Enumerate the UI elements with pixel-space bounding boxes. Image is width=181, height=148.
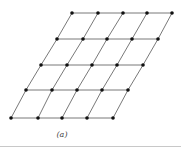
lattice-edge: [92, 39, 107, 65]
lattice-point: [100, 88, 104, 92]
lattice-edge: [77, 65, 92, 90]
lattice-point: [65, 63, 69, 67]
lattice-point: [60, 116, 64, 120]
lattice-edge: [132, 13, 147, 39]
lattice-point: [36, 116, 40, 120]
lattice-edge: [67, 39, 83, 65]
lattice-point: [141, 63, 145, 67]
lattice-edge: [143, 39, 158, 65]
lattice-point: [96, 11, 100, 15]
lattice-point: [90, 63, 94, 67]
lattice-edge: [117, 39, 132, 65]
lattice-point: [126, 88, 130, 92]
oblique-lattice-diagram: [0, 0, 181, 148]
lattice-point: [130, 37, 134, 41]
lattice-edge: [52, 65, 67, 90]
figure-caption: (a): [52, 130, 72, 139]
lattice-point: [24, 88, 28, 92]
lattice-edge: [87, 90, 102, 118]
lattice-point: [105, 37, 109, 41]
lattice-point: [9, 116, 13, 120]
lattice-point: [50, 88, 54, 92]
lattice-point: [70, 11, 74, 15]
lattice-edge: [83, 13, 98, 39]
lattice-point: [111, 116, 115, 120]
lattice-point: [81, 37, 85, 41]
divider-line: [0, 146, 181, 147]
lattice-point: [75, 88, 79, 92]
lattice-edge: [26, 65, 41, 90]
lattice-point: [121, 11, 125, 15]
lattice-point: [39, 63, 43, 67]
lattice-edge: [107, 13, 123, 39]
lattice-point: [170, 11, 174, 15]
lattice-edge: [57, 13, 72, 39]
lattice-point: [145, 11, 149, 15]
lattice-edge: [102, 65, 117, 90]
lattice-edge: [113, 90, 128, 118]
lattice-edge: [38, 90, 52, 118]
lattice-edge: [158, 13, 172, 39]
lattice-edge: [62, 90, 77, 118]
lattice-edge: [128, 65, 143, 90]
lattice-edge: [41, 39, 57, 65]
lattice-point: [55, 37, 59, 41]
lattice-point: [115, 63, 119, 67]
lattice-edge: [11, 90, 26, 118]
lattice-point: [156, 37, 160, 41]
lattice-point: [85, 116, 89, 120]
